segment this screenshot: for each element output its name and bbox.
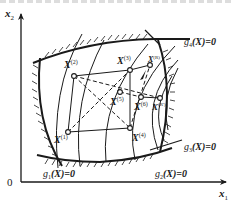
contour-line: [78, 40, 104, 166]
point-xr-prime: [158, 96, 163, 101]
point-x5: [118, 90, 123, 95]
point-x3: [128, 68, 133, 73]
direction-arrow: [140, 70, 146, 80]
label-x1: X(1): [53, 134, 68, 145]
y-axis-label: x2: [4, 7, 15, 22]
label-x2: X(2): [63, 59, 78, 70]
label-g3: g3(X)=0: [184, 141, 216, 153]
label-x3: X(3): [116, 55, 131, 66]
point-x2: [72, 74, 77, 79]
point-x4: [128, 126, 133, 131]
label-x4: X(4): [131, 132, 146, 143]
complex-method-diagram: x2 x1 0: [0, 0, 232, 204]
x-axis-label: x1: [218, 187, 229, 202]
label-xr: X(R): [147, 55, 160, 64]
origin-label: 0: [7, 176, 13, 188]
label-x5: X(5): [109, 96, 124, 107]
label-x6: X(6): [133, 101, 148, 112]
constraint-g4-boundary: [33, 30, 190, 63]
label-g2: g2(X)=0: [155, 168, 187, 180]
label-g4: g4(X)=0: [184, 36, 216, 48]
label-g1: g1(X)=0: [43, 168, 75, 180]
point-x6: [139, 95, 144, 100]
